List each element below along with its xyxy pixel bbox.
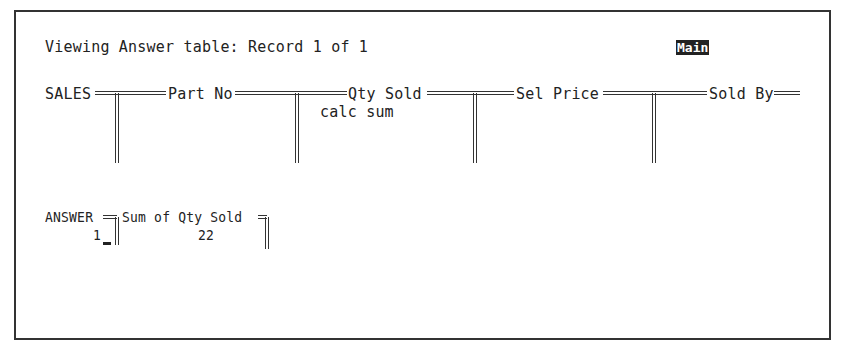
- field-value-qty-sold[interactable]: calc sum: [320, 103, 394, 120]
- answer-column-header: Sum of Qty Sold: [122, 209, 242, 226]
- field-label-sold-by[interactable]: Sold By: [709, 85, 774, 102]
- record-number: 1: [93, 227, 101, 244]
- field-separator: [427, 91, 514, 95]
- field-separator: [235, 91, 347, 95]
- field-separator: [774, 91, 800, 95]
- field-label-sel-price[interactable]: Sel Price: [516, 85, 599, 102]
- answer-column-divider: [265, 217, 269, 249]
- mode-indicator: Main: [676, 40, 709, 55]
- field-label-qty-sold[interactable]: Qty Sold: [348, 85, 422, 102]
- column-divider: [652, 93, 656, 163]
- column-divider: [295, 93, 299, 163]
- screen-frame: [14, 10, 831, 340]
- answer-column-divider: [115, 217, 119, 245]
- field-separator: [95, 91, 166, 95]
- column-divider: [115, 93, 119, 163]
- text-cursor: [103, 242, 111, 245]
- field-label-part-no[interactable]: Part No: [168, 85, 233, 102]
- answer-table-name: ANSWER: [45, 209, 93, 226]
- query-table-name: SALES: [45, 85, 91, 102]
- status-title: Viewing Answer table: Record 1 of 1: [45, 38, 368, 55]
- column-divider: [473, 93, 477, 163]
- answer-cell-sum-qty-sold[interactable]: 22: [198, 227, 214, 244]
